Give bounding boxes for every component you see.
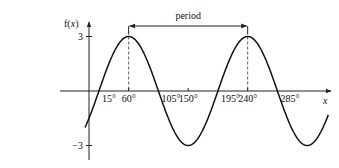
x-axis-label: x	[322, 95, 328, 106]
x-tick-label: 150°	[179, 93, 198, 104]
x-tick-label: 60°	[122, 93, 136, 104]
period-label: period	[175, 10, 201, 21]
x-tick-label: 15°	[102, 93, 116, 104]
y-tick-label: 3	[78, 31, 83, 42]
axes	[60, 22, 331, 160]
dashed-guides	[129, 37, 248, 92]
x-tick-label: 195°	[221, 93, 240, 104]
y-tick-label: −3	[72, 140, 83, 151]
x-tick-label: 285°	[280, 93, 299, 104]
y-axis-label: f(x)	[64, 18, 78, 30]
x-tick-label: 240°	[238, 93, 257, 104]
x-tick-label: 105°	[161, 93, 180, 104]
sine-chart: 15°60°105°150°195°240°285°3−3 period f(x…	[0, 0, 339, 168]
period-annotation: period	[129, 10, 248, 35]
